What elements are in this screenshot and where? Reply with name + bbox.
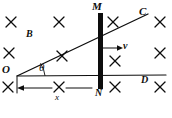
conducting-rod-mn [98,13,103,89]
distance-dimension-x [17,77,92,93]
label-angle-theta: θ [39,62,44,73]
label-distance-x: x [55,93,59,102]
label-origin-o: O [2,64,10,75]
field-mark-x [155,17,165,27]
field-mark-x [110,82,120,92]
field-mark-x [155,48,165,58]
physics-diagram: M C B v θ O D N x [0,0,172,118]
diagram-canvas [0,0,172,118]
field-mark-x [54,82,64,92]
field-mark-x [110,56,120,66]
field-mark-x [6,17,16,27]
label-rod-top-m: M [92,1,102,12]
field-mark-x [54,17,64,27]
field-mark-x [3,82,13,92]
label-rail-end-d: D [141,75,148,85]
rail-oc [17,14,148,76]
label-rail-end-c: C [139,6,146,17]
label-rod-bottom-n: N [95,88,102,98]
label-magnetic-field-b: B [26,29,33,39]
field-mark-x [155,82,165,92]
field-mark-x [4,48,14,58]
label-velocity-v: v [123,41,127,51]
velocity-arrow [103,45,123,51]
field-mark-x [108,17,118,27]
